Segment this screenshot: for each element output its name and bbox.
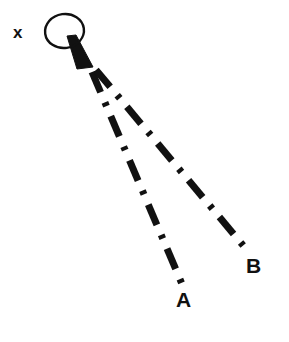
ray-segment [180, 279, 182, 283]
ray-segment [148, 132, 151, 135]
ray-segment [124, 147, 126, 151]
diagram-canvas-root: x A B [0, 0, 289, 342]
ray-segment [142, 191, 144, 195]
ray-segment [241, 242, 244, 245]
ray-segment [117, 95, 120, 98]
ray-segment [105, 102, 107, 106]
ray-segment [179, 169, 182, 172]
ray-diagram-svg [0, 0, 289, 342]
ray-segment [161, 235, 163, 239]
source-label-x: x [13, 24, 22, 41]
ray-segment [210, 206, 213, 209]
diagram-background [0, 0, 289, 342]
ray-label-a: A [176, 289, 191, 310]
ray-label-b: B [246, 255, 261, 276]
